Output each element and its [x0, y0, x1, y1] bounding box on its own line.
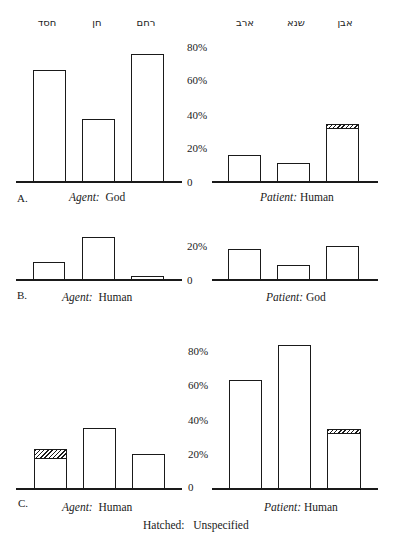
y-tick-80: 80%: [188, 345, 208, 357]
bar: [33, 262, 65, 279]
baseline-right: [212, 488, 378, 490]
header-label-left-3: רחם: [126, 17, 166, 28]
bar: [83, 428, 116, 488]
baseline-right: [212, 279, 378, 281]
y-tick-80: 80%: [187, 41, 207, 53]
value: God: [105, 191, 125, 203]
right-caption: Patient: Human: [264, 501, 338, 513]
left-caption: Agent: Human: [62, 501, 132, 513]
role: Patient:: [260, 191, 297, 203]
bar: [326, 124, 359, 181]
legend-key: Hatched:: [143, 519, 185, 531]
bar: [326, 246, 359, 279]
left-caption: Agent: Human: [62, 291, 132, 303]
hatched-segment: [35, 450, 66, 459]
role: Agent:: [62, 501, 93, 513]
bar: [82, 237, 115, 279]
bar: [327, 429, 361, 488]
y-tick-20: 20%: [188, 448, 208, 460]
y-tick-0: 0: [187, 176, 193, 188]
right-caption: Patient: God: [266, 291, 326, 303]
bar: [278, 345, 311, 488]
legend: Hatched: Unspecified: [143, 519, 249, 531]
role: Patient:: [266, 291, 303, 303]
y-tick-0: 0: [188, 481, 194, 493]
y-tick-40: 40%: [188, 414, 208, 426]
right-caption: Patient: Human: [260, 191, 334, 203]
value: Human: [98, 291, 132, 303]
y-tick-40: 40%: [187, 109, 207, 121]
hatched-segment: [328, 430, 360, 434]
bar: [277, 265, 310, 279]
baseline-left: [16, 488, 182, 490]
left-caption: Agent: God: [69, 191, 125, 203]
y-tick-0: 0: [187, 274, 193, 286]
header-label-right-1: ארב: [225, 17, 265, 28]
bar: [131, 276, 164, 279]
header-label-right-2: שנא: [276, 17, 316, 28]
bar: [131, 54, 164, 181]
baseline-left: [16, 279, 182, 281]
role: Agent:: [69, 191, 100, 203]
y-tick-20: 20%: [187, 142, 207, 154]
panel-label: A.: [17, 192, 28, 204]
header-label-left-2: חן: [77, 17, 117, 28]
role: Agent:: [62, 291, 93, 303]
bar: [34, 449, 67, 488]
baseline-left: [16, 181, 182, 183]
bar: [132, 454, 165, 488]
bar: [229, 380, 262, 488]
bar: [228, 249, 261, 279]
value: Human: [98, 501, 132, 513]
y-tick-60: 60%: [187, 74, 207, 86]
bar: [33, 70, 66, 181]
hatched-segment: [327, 125, 358, 129]
header-label-right-3: אבן: [325, 17, 365, 28]
value: Human: [304, 501, 338, 513]
value: Human: [300, 191, 334, 203]
role: Patient:: [264, 501, 301, 513]
legend-value: Unspecified: [193, 519, 249, 531]
panel-label: C.: [18, 497, 28, 509]
bar: [82, 119, 115, 181]
y-tick-20: 20%: [187, 240, 207, 252]
y-tick-60: 60%: [188, 379, 208, 391]
bar: [277, 163, 310, 181]
value: God: [306, 291, 326, 303]
baseline-right: [212, 181, 378, 183]
header-label-left-1: חסד: [27, 17, 67, 28]
bar: [228, 155, 261, 181]
panel-label: B.: [17, 289, 27, 301]
